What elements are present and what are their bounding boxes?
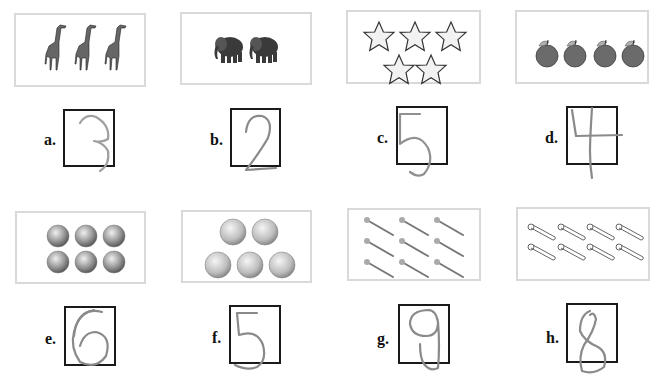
picture-box-elephants (180, 12, 312, 85)
answer-box-h[interactable] (566, 303, 618, 363)
handwritten-digit-6 (66, 308, 118, 368)
handwritten-digit-5 (231, 307, 283, 366)
picture-box-stars (346, 10, 481, 84)
answer-box-e[interactable] (64, 306, 116, 366)
handwritten-digit-8 (568, 305, 620, 365)
answer-box-g[interactable] (398, 304, 450, 364)
elephant-icon (182, 14, 314, 87)
answer-box-a[interactable] (63, 109, 115, 167)
marble-icon (17, 213, 148, 286)
answer-box-b[interactable] (230, 108, 281, 167)
picture-box-safety-pins (516, 207, 650, 281)
handwritten-digit-2 (232, 110, 283, 169)
answer-box-d[interactable] (566, 106, 618, 165)
item-label-a: a. (44, 132, 56, 148)
star-icon (348, 12, 483, 86)
item-label-d: d. (545, 130, 558, 146)
item-label-b: b. (210, 132, 223, 148)
item-label-e: e. (45, 331, 56, 347)
picture-box-marbles (15, 211, 146, 284)
item-label-c: c. (377, 130, 388, 146)
giraffe-icon (16, 15, 148, 89)
item-label-f: f. (212, 330, 221, 346)
handwritten-digit-4 (568, 108, 620, 167)
baseball-icon (183, 212, 314, 285)
handwritten-digit-3 (65, 111, 117, 169)
safety-pin-icon (518, 209, 652, 283)
item-label-h: h. (546, 330, 559, 346)
answer-box-c[interactable] (396, 106, 448, 165)
picture-box-baseballs (181, 210, 312, 283)
apple-icon (517, 12, 651, 86)
picture-box-giraffes (14, 13, 146, 87)
answer-box-f[interactable] (229, 305, 281, 364)
nail-icon (349, 210, 483, 283)
picture-box-apples (515, 10, 649, 84)
handwritten-digit-9 (400, 306, 452, 366)
item-label-g: g. (377, 331, 389, 347)
picture-box-nails (347, 208, 481, 281)
handwritten-digit-5 (398, 108, 450, 167)
